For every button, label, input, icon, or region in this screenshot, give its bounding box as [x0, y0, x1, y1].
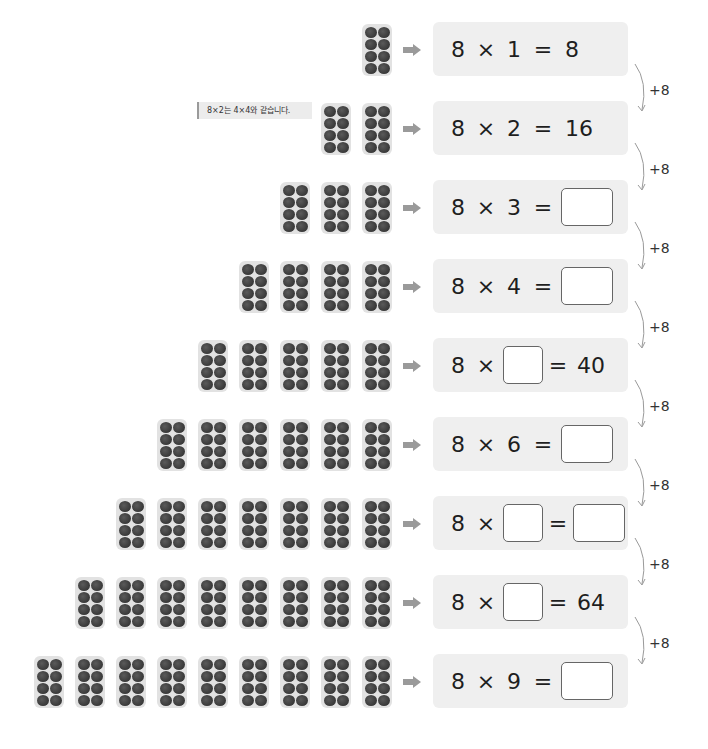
- egg-icon: [296, 525, 308, 536]
- egg-icon: [283, 355, 295, 366]
- egg-icon: [173, 513, 185, 524]
- egg-icon: [173, 616, 185, 627]
- plus-eight-label: +8: [649, 635, 670, 651]
- egg-pack-icon: [34, 656, 64, 708]
- right-arrow-icon: [402, 595, 422, 609]
- multiplier-answer-box[interactable]: [503, 504, 543, 542]
- egg-icon: [242, 288, 254, 299]
- egg-icon: [365, 27, 377, 38]
- egg-icon: [324, 434, 336, 445]
- product-answer-box[interactable]: [561, 662, 613, 700]
- egg-icon: [283, 671, 295, 682]
- egg-icon: [296, 458, 308, 469]
- multiplier-answer-box[interactable]: [503, 583, 543, 621]
- egg-icon: [242, 683, 254, 694]
- equation-box: 8×4=: [433, 259, 628, 313]
- egg-icon: [324, 501, 336, 512]
- multiplier: 6: [503, 432, 525, 457]
- egg-pack-icon: [239, 261, 269, 313]
- egg-icon: [255, 525, 267, 536]
- egg-icon: [337, 458, 349, 469]
- egg-icon: [255, 695, 267, 706]
- egg-pack-icon: [280, 340, 310, 392]
- egg-icon: [365, 185, 377, 196]
- egg-icon: [242, 264, 254, 275]
- egg-icon: [242, 276, 254, 287]
- step-connector: +8: [632, 457, 702, 517]
- egg-icon: [283, 616, 295, 627]
- egg-icon: [378, 367, 390, 378]
- egg-pack-icon: [198, 419, 228, 471]
- egg-icon: [365, 446, 377, 457]
- product-answer-box[interactable]: [561, 425, 613, 463]
- product-answer-box[interactable]: [561, 267, 613, 305]
- egg-icon: [132, 695, 144, 706]
- egg-icon: [214, 355, 226, 366]
- egg-icon: [324, 671, 336, 682]
- egg-icon: [365, 379, 377, 390]
- equation-row: 8×4=: [0, 259, 708, 315]
- right-arrow-icon: [402, 516, 422, 530]
- egg-icon: [283, 276, 295, 287]
- egg-icon: [324, 379, 336, 390]
- multiplier-answer-box[interactable]: [503, 346, 543, 384]
- egg-icon: [365, 118, 377, 129]
- egg-icon: [78, 659, 90, 670]
- egg-icon: [365, 367, 377, 378]
- egg-icon: [160, 513, 172, 524]
- egg-icon: [119, 604, 131, 615]
- egg-pack-icon: [362, 261, 392, 313]
- egg-icon: [365, 39, 377, 50]
- multiplier: 3: [503, 195, 525, 220]
- egg-icon: [365, 221, 377, 232]
- egg-icon: [160, 434, 172, 445]
- egg-icon: [214, 458, 226, 469]
- egg-icon: [378, 221, 390, 232]
- egg-pack-icon: [321, 656, 351, 708]
- egg-icon: [283, 659, 295, 670]
- egg-icon: [296, 422, 308, 433]
- egg-icon: [365, 355, 377, 366]
- egg-icon: [201, 501, 213, 512]
- egg-icon: [37, 671, 49, 682]
- egg-icon: [337, 300, 349, 311]
- egg-icon: [214, 513, 226, 524]
- egg-icon: [242, 580, 254, 591]
- egg-icon: [91, 580, 103, 591]
- egg-icon: [173, 422, 185, 433]
- product-answer-box[interactable]: [573, 504, 625, 542]
- plus-eight-label: +8: [649, 240, 670, 256]
- egg-icon: [214, 343, 226, 354]
- egg-icon: [173, 592, 185, 603]
- egg-icon: [337, 592, 349, 603]
- egg-icon: [283, 209, 295, 220]
- egg-icon: [365, 458, 377, 469]
- egg-icon: [283, 288, 295, 299]
- egg-icon: [242, 537, 254, 548]
- egg-icon: [378, 130, 390, 141]
- egg-icon: [378, 683, 390, 694]
- equation-box: 8×=64: [433, 575, 628, 629]
- egg-icon: [296, 537, 308, 548]
- egg-icon: [201, 379, 213, 390]
- egg-icon: [91, 616, 103, 627]
- egg-icon: [365, 616, 377, 627]
- egg-icon: [255, 683, 267, 694]
- egg-pack-icon: [157, 419, 187, 471]
- egg-icon: [296, 592, 308, 603]
- egg-icon: [337, 288, 349, 299]
- egg-icon: [255, 422, 267, 433]
- times-sign: ×: [469, 353, 503, 378]
- step-connector: +8: [632, 220, 702, 280]
- multiplicand: 8: [447, 669, 469, 694]
- egg-icon: [378, 106, 390, 117]
- egg-icon: [283, 537, 295, 548]
- product-answer-box[interactable]: [561, 188, 613, 226]
- egg-pack-icon: [362, 577, 392, 629]
- egg-icon: [337, 106, 349, 117]
- egg-icon: [242, 659, 254, 670]
- egg-icon: [324, 288, 336, 299]
- egg-icon: [242, 434, 254, 445]
- egg-icon: [365, 580, 377, 591]
- egg-icon: [173, 604, 185, 615]
